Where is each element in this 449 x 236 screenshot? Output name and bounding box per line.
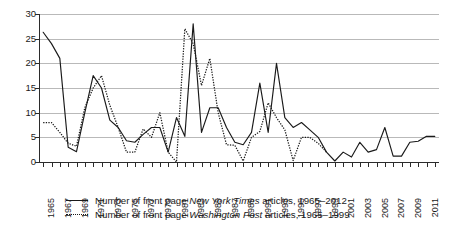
x-tick-mark	[393, 162, 394, 167]
x-tick-label: 2011	[431, 198, 440, 217]
legend-label-new-york-times: Number of front page New York Times arti…	[95, 195, 347, 206]
x-tick-mark	[227, 162, 228, 167]
x-tick-mark	[268, 162, 269, 167]
x-tick-mark	[260, 162, 261, 167]
x-tick-mark	[177, 162, 178, 167]
x-tick-mark	[102, 162, 103, 167]
y-axis-labels: 051015202530	[10, 0, 36, 236]
x-tick-mark	[160, 162, 161, 167]
dotted-line-icon	[66, 209, 88, 219]
x-tick-label: 2009	[414, 198, 423, 218]
x-tick-mark	[43, 162, 44, 167]
x-tick-mark	[410, 162, 411, 167]
x-tick-mark	[277, 162, 278, 167]
x-tick-mark	[193, 162, 194, 167]
x-tick-mark	[385, 162, 386, 167]
x-tick-mark	[68, 162, 69, 167]
x-tick-mark	[60, 162, 61, 167]
y-tick-label: 20	[14, 58, 36, 68]
x-tick-mark	[243, 162, 244, 167]
y-tick-label: 25	[14, 34, 36, 44]
x-tick-mark	[352, 162, 353, 167]
x-tick-label: 1965	[47, 198, 56, 218]
x-tick-mark	[360, 162, 361, 167]
x-tick-mark	[402, 162, 403, 167]
y-tick-label: 10	[14, 108, 36, 118]
y-tick-label: 15	[14, 83, 36, 93]
x-tick-mark	[343, 162, 344, 167]
x-tick-mark	[52, 162, 53, 167]
x-tick-mark	[427, 162, 428, 167]
x-tick-mark	[293, 162, 294, 167]
x-tick-mark	[218, 162, 219, 167]
legend-label-washington-post: Number of front page Washington Post art…	[95, 209, 350, 220]
x-tick-mark	[93, 162, 94, 167]
x-tick-mark	[302, 162, 303, 167]
x-tick-mark	[210, 162, 211, 167]
x-tick-mark	[335, 162, 336, 167]
x-tick-mark	[377, 162, 378, 167]
x-tick-mark	[110, 162, 111, 167]
legend-item-new-york-times: Number of front page New York Times arti…	[66, 193, 406, 207]
x-tick-mark	[368, 162, 369, 167]
y-tick-label: 5	[14, 132, 36, 142]
y-tick-label: 0	[14, 157, 36, 167]
legend-item-washington-post: Number of front page Washington Post art…	[66, 207, 406, 221]
x-tick-mark	[77, 162, 78, 167]
x-tick-mark	[418, 162, 419, 167]
series-new-york-times-line	[43, 24, 435, 161]
x-tick-mark	[285, 162, 286, 167]
chart-figure: 051015202530 196519671969197119731975197…	[0, 0, 449, 236]
x-tick-mark	[310, 162, 311, 167]
y-tick-label: 30	[14, 9, 36, 19]
x-tick-mark	[235, 162, 236, 167]
x-tick-mark	[202, 162, 203, 167]
x-tick-mark	[152, 162, 153, 167]
x-tick-mark	[85, 162, 86, 167]
series-washington-post-line	[43, 29, 326, 162]
x-tick-mark	[135, 162, 136, 167]
x-tick-mark	[252, 162, 253, 167]
solid-line-icon	[66, 195, 88, 205]
x-tick-mark	[127, 162, 128, 167]
x-tick-mark	[327, 162, 328, 167]
chart-legend: Number of front page New York Times arti…	[66, 193, 406, 221]
x-tick-mark	[143, 162, 144, 167]
x-tick-mark	[118, 162, 119, 167]
chart-series	[39, 14, 439, 162]
x-tick-mark	[318, 162, 319, 167]
x-tick-mark	[185, 162, 186, 167]
x-tick-mark	[168, 162, 169, 167]
x-tick-mark	[435, 162, 436, 167]
